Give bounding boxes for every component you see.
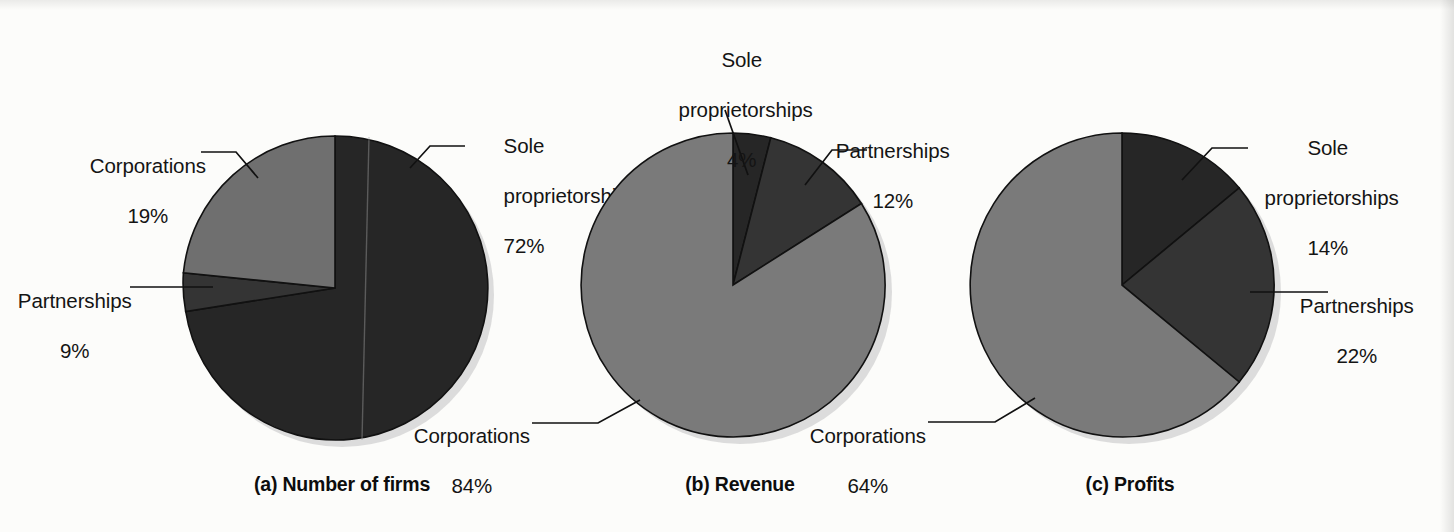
pie-chart-c: Sole proprietorships 14% Partnerships 22…	[960, 0, 1440, 532]
pie-c-label-corporations-value: 64%	[847, 474, 888, 497]
pie-a-label-corporations-value: 19%	[127, 204, 168, 227]
pie-b-label-sole-value: 4%	[727, 148, 756, 171]
pie-c-caption: (c) Profits	[980, 473, 1280, 496]
pie-a-label-partnerships-name: Partnerships	[18, 289, 132, 312]
pie-b-label-sole-line1: Sole	[721, 48, 762, 71]
pie-b-label-partnerships-block: Partnerships 12%	[796, 113, 956, 238]
pie-c-label-corporations-block: Corporations 64%	[776, 398, 926, 523]
pie-b-label-sole-line2: proprietorships	[679, 98, 813, 121]
figure-page: Sole proprietorships 72% Corporations 19…	[0, 0, 1454, 532]
pie-c-label-sole-value: 14%	[1307, 236, 1348, 259]
pie-a-label-partnerships-value: 9%	[60, 339, 89, 362]
pie-c-label-partnerships-name: Partnerships	[1300, 294, 1414, 317]
pie-b-label-corporations-name: Corporations	[414, 424, 530, 447]
pie-c-label-partnerships-value: 22%	[1336, 344, 1377, 367]
pie-a-label-partnerships-block: Partnerships 9%	[0, 263, 132, 388]
pie-b-label-partnerships-name: Partnerships	[836, 139, 950, 162]
pie-c-label-partnerships-block: Partnerships 22%	[1260, 268, 1420, 393]
pie-c-label-sole-line2: proprietorships	[1265, 186, 1399, 209]
pie-b-label-corporations-block: Corporations 84%	[380, 398, 530, 523]
pie-c-label-sole-line1: Sole	[1307, 136, 1348, 159]
pie-a-label-corporations-name: Corporations	[90, 154, 206, 177]
pie-b-label-corporations-value: 84%	[451, 474, 492, 497]
pie-b-label-partnerships-value: 12%	[872, 189, 913, 212]
pie-b-leader-corporations	[532, 400, 640, 423]
pie-c-label-sole-block: Sole proprietorships 14%	[1231, 110, 1391, 285]
pie-a-slice-corporations[interactable]	[183, 136, 335, 288]
pie-a-label-corporations-block: Corporations 19%	[56, 128, 206, 253]
pie-b-label-sole-block: Sole proprietorships 4%	[645, 22, 805, 197]
pie-c-label-corporations-name: Corporations	[810, 424, 926, 447]
